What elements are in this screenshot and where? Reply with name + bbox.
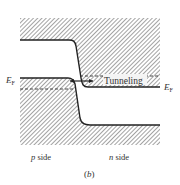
band-diagram: Tunneling EF EF p side n side (b) [0,0,180,185]
panel-label: (b) [84,169,95,179]
fermi-level-label-right: EF [163,82,174,93]
p-side-label: p side [30,152,51,162]
valence-band-region [20,78,160,145]
fermi-level-label-left: EF [5,75,16,86]
tunneling-label: Tunneling [104,76,143,86]
n-side-label: n side [109,152,129,162]
